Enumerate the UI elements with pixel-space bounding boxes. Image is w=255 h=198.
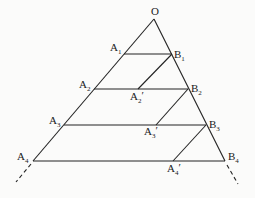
label-B1: B1 (174, 48, 185, 63)
label-B2: B2 (191, 82, 202, 97)
segment-B1A2prime (138, 54, 172, 89)
segment-B2A3prime (156, 89, 188, 125)
label-A2-prime: A2′ (130, 89, 144, 105)
side-OB (154, 19, 225, 161)
label-O: O (151, 5, 159, 17)
segment-B3A4prime (173, 125, 206, 161)
diagram-canvas: O A1 B1 A2 A2′ B2 A3 A3′ B3 A4 A4′ B4 (0, 0, 255, 198)
label-A4-prime: A4′ (167, 161, 181, 177)
label-A4: A4 (17, 150, 29, 165)
label-B3: B3 (209, 118, 220, 133)
triangle-construction-diagram: O A1 B1 A2 A2′ B2 A3 A3′ B3 A4 A4′ B4 (0, 0, 255, 198)
label-B4: B4 (228, 150, 239, 165)
label-A3-prime: A3′ (144, 124, 158, 140)
extension-right-dashed (227, 165, 238, 184)
label-A1: A1 (110, 41, 122, 56)
label-A2: A2 (79, 78, 91, 93)
extension-left-dashed (16, 164, 31, 182)
label-A3: A3 (49, 114, 61, 129)
